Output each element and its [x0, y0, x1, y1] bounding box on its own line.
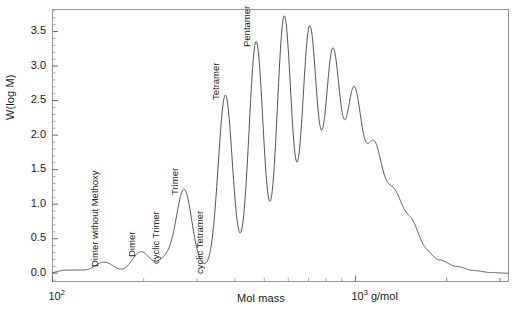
- peak-label-cyclic-trimer: cyclic Trimer: [150, 212, 161, 265]
- y-tick-label: 1.0: [8, 197, 46, 209]
- peak-label-trimer: Trimer: [169, 168, 180, 195]
- peak-label-dimer-without-methoxy: Dimer without Methoxy: [89, 171, 100, 268]
- x-tick-label-1e2: 102: [49, 288, 65, 302]
- y-axis-title: W(log M): [4, 104, 16, 120]
- chart-figure: W(log M) Mol mass 0.00.51.01.52.02.53.03…: [0, 0, 522, 314]
- y-tick-label: 2.5: [8, 93, 46, 105]
- plot-canvas: [0, 0, 522, 314]
- x-tick-label-1e3: 103 g/mol: [351, 288, 397, 302]
- peak-label-tetramer: Tetramer: [210, 63, 221, 100]
- y-tick-label: 1.5: [8, 162, 46, 174]
- y-axis-ticks: [53, 11, 59, 280]
- y-tick-label: 0.0: [8, 266, 46, 278]
- peak-label-cyclic-tetramer: cyclic Tetramer: [194, 211, 205, 274]
- y-tick-label: 3.0: [8, 59, 46, 71]
- x-axis-title: Mol mass: [0, 292, 522, 304]
- distribution-curve: [53, 16, 509, 273]
- peak-label-dimer: Dimer: [126, 231, 137, 256]
- x-axis-ticks: [53, 276, 501, 282]
- y-tick-label: 3.5: [8, 24, 46, 36]
- peak-label-pentamer: Pentamer: [241, 6, 252, 47]
- y-tick-label: 0.5: [8, 231, 46, 243]
- y-tick-label: 2.0: [8, 128, 46, 140]
